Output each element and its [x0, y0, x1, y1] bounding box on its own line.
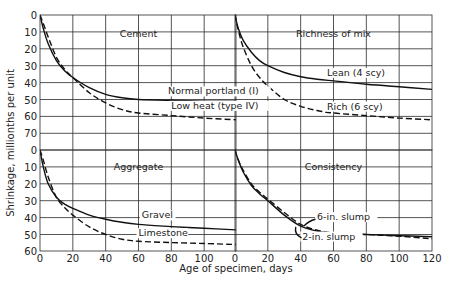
y-tick-label: 40: [24, 213, 37, 224]
y-tick-label: 30: [24, 61, 37, 72]
x-tick-label: 120: [422, 253, 441, 264]
series-label-richness-0: Lean (4 scy): [327, 67, 385, 78]
y-axis-label: Shrinkage, millionths per unit: [5, 69, 16, 217]
y-tick-label: 0: [31, 10, 37, 21]
panel-title-aggregate: Aggregate: [114, 161, 164, 172]
x-tick-label: 100: [390, 253, 409, 264]
x-tick-label: 40: [99, 253, 112, 264]
y-tick-label: 20: [24, 44, 37, 55]
y-tick-label: 50: [24, 230, 37, 241]
y-tick-label: 10: [24, 162, 37, 173]
y-tick-label: 50: [24, 95, 37, 106]
x-tick-label: 0: [37, 253, 43, 264]
y-tick-label: 10: [24, 27, 37, 38]
series-label-consistency-1: 2-in. slump: [302, 231, 355, 242]
series-label-cement-0: Normal portland (I): [168, 85, 259, 96]
series-label-consistency-0: 6-in. slump: [317, 211, 370, 222]
y-tick-label: 0: [31, 145, 37, 156]
chart-canvas: CementNormal portland (I)Low heat (type …: [0, 0, 452, 284]
x-tick-label: 80: [360, 253, 373, 264]
x-tick-label: 60: [132, 253, 145, 264]
x-axis-label: Age of specimen, days: [179, 263, 293, 274]
y-tick-label: 30: [24, 196, 37, 207]
series-label-cement-1: Low heat (type IV): [171, 100, 258, 111]
y-tick-label: 40: [24, 78, 37, 89]
panel-title-cement: Cement: [120, 28, 158, 39]
leader-6in: [304, 219, 315, 226]
panel-title-consistency: Consistency: [305, 161, 363, 172]
panel-title-richness: Richness of mix: [296, 28, 371, 39]
x-tick-label: 80: [165, 253, 178, 264]
y-tick-label: 60: [24, 111, 37, 122]
x-tick-label: 20: [66, 253, 79, 264]
series-label-aggregate-1: Limestone: [139, 227, 189, 238]
x-tick-label: 40: [294, 253, 307, 264]
series-label-richness-1: Rich (6 scy): [327, 101, 383, 112]
series-label-aggregate-0: Gravel: [142, 209, 173, 220]
y-tick-label: 20: [24, 179, 37, 190]
y-tick-label: 70: [24, 128, 37, 139]
y-tick-label: 60: [24, 246, 37, 257]
shrinkage-chart-figure: CementNormal portland (I)Low heat (type …: [0, 0, 452, 284]
x-tick-label: 60: [327, 253, 340, 264]
